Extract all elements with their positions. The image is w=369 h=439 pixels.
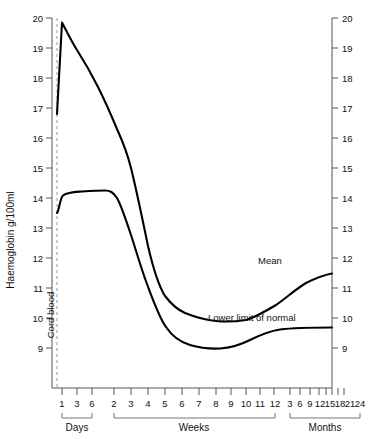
group-label-months: Months	[309, 422, 342, 433]
mean-series-label: Mean	[258, 255, 282, 266]
right-tick-label-20: 20	[342, 13, 353, 24]
xtick-label-week-10: 10	[241, 398, 252, 409]
left-tick-label-11: 11	[33, 283, 43, 294]
lower-limit-curve	[57, 191, 332, 349]
right-tick-label-12: 12	[342, 253, 353, 264]
left-tick-label-16: 16	[32, 133, 43, 144]
right-tick-label-18: 18	[342, 73, 353, 84]
right-tick-label-14: 14	[342, 193, 353, 204]
xtick-label-month-3: 3	[287, 398, 292, 409]
left-tick-label-9: 9	[38, 343, 43, 354]
xtick-label-month-9: 9	[307, 398, 312, 409]
right-axis-tick-labels: 20 19 18 17 16 15 14 13 12 11 10 9	[342, 13, 353, 354]
bracket-weeks	[114, 413, 275, 418]
cord-blood-label: Cord blood	[45, 292, 56, 338]
series-mean: Mean	[57, 23, 332, 322]
right-tick-label-9: 9	[342, 343, 347, 354]
xtick-label-week-3: 3	[128, 398, 133, 409]
xtick-label-month-6: 6	[297, 398, 302, 409]
left-tick-label-13: 13	[32, 223, 43, 234]
x-axis-group-brackets: Days Weeks Months	[62, 413, 360, 433]
right-tick-label-10: 10	[342, 313, 353, 324]
mean-curve	[57, 23, 332, 322]
group-label-weeks: Weeks	[179, 422, 209, 433]
left-tick-label-19: 19	[32, 43, 43, 54]
cord-blood-marker: Cord blood	[45, 18, 57, 388]
xtick-label-month-18: 18	[335, 398, 346, 409]
xtick-label-day-1: 1	[59, 398, 64, 409]
left-tick-label-12: 12	[32, 253, 43, 264]
right-axis-ticks	[332, 18, 338, 348]
xtick-label-month-24: 24	[355, 398, 366, 409]
right-y-axis: 20 19 18 17 16 15 14 13 12 11 10 9	[332, 13, 353, 389]
left-tick-label-10: 10	[32, 313, 43, 324]
xtick-label-month-21: 21	[345, 398, 356, 409]
xtick-label-week-7: 7	[196, 398, 201, 409]
bracket-days	[62, 413, 92, 418]
right-tick-label-15: 15	[342, 163, 353, 174]
y-axis-title: Haemoglobin g/100ml	[5, 191, 16, 288]
xtick-label-week-6: 6	[179, 398, 184, 409]
chart-canvas: 20 19 18 17 16 15 14 13 12 11 10 9 Haemo…	[0, 0, 369, 439]
lower-limit-series-label: Lower limit of normal	[208, 312, 296, 323]
left-tick-label-18: 18	[32, 73, 43, 84]
right-tick-label-16: 16	[342, 133, 353, 144]
left-axis-tick-labels: 20 19 18 17 16 15 14 13 12 11 10 9	[32, 13, 43, 354]
group-label-days: Days	[66, 422, 89, 433]
xtick-label-day-3: 3	[74, 398, 79, 409]
x-axis: 1 3 6 2 3 4 5 6 7 8 9 10 11 12 3 6 9 12 …	[52, 388, 365, 409]
left-tick-label-14: 14	[32, 193, 43, 204]
right-tick-label-11: 11	[342, 283, 352, 294]
xtick-label-week-8: 8	[213, 398, 218, 409]
right-tick-label-19: 19	[342, 43, 353, 54]
haemoglobin-growth-chart: 20 19 18 17 16 15 14 13 12 11 10 9 Haemo…	[0, 0, 369, 439]
xtick-label-week-11: 11	[255, 398, 265, 409]
left-tick-label-20: 20	[32, 13, 43, 24]
xtick-label-week-2: 2	[111, 398, 116, 409]
xtick-label-month-12: 12	[315, 398, 326, 409]
left-tick-label-15: 15	[32, 163, 43, 174]
xtick-label-week-12: 12	[270, 398, 281, 409]
bracket-months	[290, 413, 360, 418]
xtick-label-week-9: 9	[228, 398, 233, 409]
xtick-label-month-15: 15	[325, 398, 336, 409]
left-tick-label-17: 17	[32, 103, 43, 114]
series-lower-limit: Lower limit of normal	[57, 191, 332, 349]
xtick-label-day-6: 6	[89, 398, 94, 409]
xtick-label-week-5: 5	[162, 398, 167, 409]
right-tick-label-17: 17	[342, 103, 353, 114]
xtick-label-week-4: 4	[145, 398, 150, 409]
right-tick-label-13: 13	[342, 223, 353, 234]
